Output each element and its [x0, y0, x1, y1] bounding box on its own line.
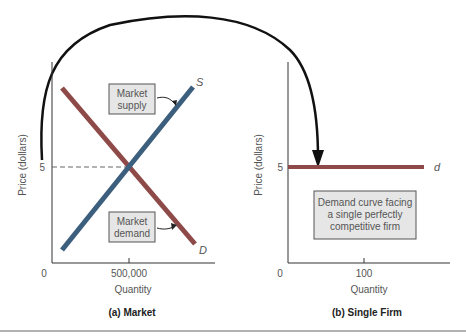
y-tick: 5	[39, 162, 45, 173]
firm-demand-tag: d	[434, 161, 441, 173]
svg-text:5: 5	[277, 162, 283, 173]
svg-text:Demand curve facing: Demand curve facing	[318, 197, 413, 208]
svg-text:0: 0	[277, 268, 283, 279]
firm-panel: d Demand curve facing a single perfectly…	[253, 62, 450, 318]
svg-text:Market: Market	[117, 216, 148, 227]
svg-text:Market: Market	[117, 88, 148, 99]
svg-text:competitive firm: competitive firm	[330, 221, 400, 232]
y-axis-label: Price (dollars)	[17, 134, 28, 196]
supply-tag: S	[196, 76, 204, 88]
svg-text:Quantity: Quantity	[350, 284, 387, 295]
x-axis-label: Quantity	[114, 284, 151, 295]
svg-text:Price (dollars): Price (dollars)	[253, 134, 264, 196]
panel-title: (b) Single Firm	[332, 307, 402, 318]
svg-text:supply: supply	[118, 100, 147, 111]
transfer-arrow	[41, 16, 318, 160]
market-panel: S D Market supply Market demand 5 0 500,…	[17, 62, 215, 318]
figure: S D Market supply Market demand 5 0 500,…	[0, 0, 466, 336]
panel-title: (a) Market	[108, 307, 156, 318]
svg-text:a single perfectly: a single perfectly	[327, 209, 402, 220]
svg-text:100: 100	[356, 268, 373, 279]
svg-text:demand: demand	[114, 228, 150, 239]
origin-label: 0	[41, 268, 47, 279]
demand-tag: D	[199, 244, 207, 256]
x-tick: 500,000	[111, 268, 148, 279]
